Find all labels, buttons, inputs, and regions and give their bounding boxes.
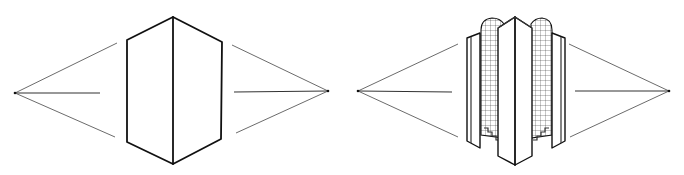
slab-left [467, 33, 480, 148]
panel-tower [357, 17, 671, 165]
slab-right [552, 33, 565, 148]
right-vanishing-point-2 [668, 90, 671, 93]
left-vanishing-guides [14, 43, 117, 137]
left-vanishing-point-2 [357, 90, 360, 93]
left-vanishing-guides-2 [357, 44, 458, 137]
box [127, 17, 222, 164]
right-vanishing-guides [232, 45, 329, 133]
right-vanishing-point [327, 90, 330, 93]
panel-simple-box [14, 17, 330, 164]
right-vanishing-guides-2 [569, 44, 670, 137]
left-vanishing-point [14, 92, 17, 95]
gridded-bay-right [531, 18, 552, 140]
central-tower [498, 17, 532, 165]
perspective-figure: Two-point perspective box Two-point pers… [0, 0, 684, 175]
